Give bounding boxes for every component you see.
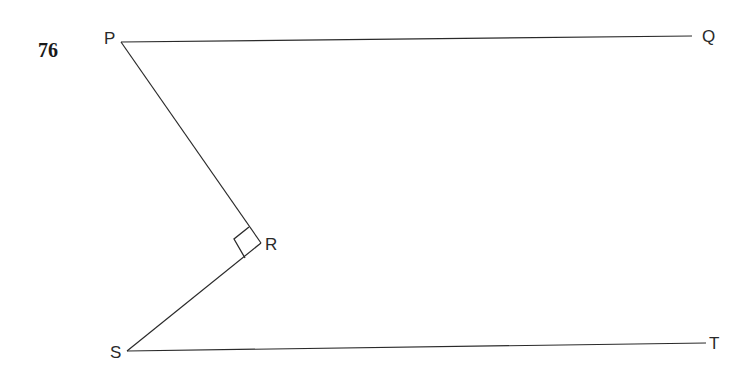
point-label-p: P: [104, 29, 115, 48]
segment-pr: [121, 42, 261, 243]
point-label-r: R: [265, 235, 277, 254]
right-angle-marker: [234, 227, 249, 258]
geometry-diagram: 76 P Q R S T: [0, 0, 756, 375]
problem-number: 76: [38, 39, 58, 61]
segment-pq: [121, 36, 692, 42]
point-label-t: T: [709, 334, 719, 353]
segment-st: [127, 343, 706, 351]
point-label-s: S: [110, 343, 121, 362]
segment-rs: [127, 243, 261, 351]
point-label-q: Q: [702, 27, 715, 46]
